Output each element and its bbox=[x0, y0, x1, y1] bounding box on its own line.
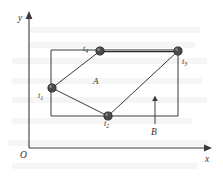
node-label-t4-sub: 4 bbox=[85, 48, 88, 54]
node-label-t2-sub: 2 bbox=[106, 123, 109, 129]
origin-label: O bbox=[20, 151, 27, 161]
node-dot-t3-gloss bbox=[175, 48, 178, 51]
conductor-segment-t2-t1 bbox=[52, 88, 108, 116]
node-label-t1-sub: 1 bbox=[40, 95, 43, 101]
node-label-t4: t4 bbox=[83, 45, 88, 53]
node-label-t3-sub: 3 bbox=[184, 61, 187, 67]
y-axis-label: y bbox=[18, 14, 22, 24]
node-label-t2: t2 bbox=[104, 120, 109, 128]
y-axis-arrowhead bbox=[26, 11, 33, 19]
node-dot-t4 bbox=[96, 47, 104, 55]
area-label-A: A bbox=[93, 77, 99, 86]
axes-group bbox=[26, 11, 212, 151]
node-dot-t4-gloss bbox=[97, 48, 100, 51]
node-dot-t3 bbox=[174, 47, 182, 55]
node-dot-t1-gloss bbox=[49, 85, 52, 88]
x-axis-label: x bbox=[205, 155, 209, 165]
diagram-canvas bbox=[0, 0, 223, 180]
node-dot-t1 bbox=[48, 84, 56, 92]
field-arrow-head bbox=[152, 96, 158, 102]
physics-diagram-figure: y x O t1 t2 t3 t4 A B bbox=[0, 0, 223, 180]
x-axis-arrowhead bbox=[204, 145, 212, 152]
node-dot-t2-gloss bbox=[105, 113, 108, 116]
magnetic-field-label-B: B bbox=[151, 128, 157, 138]
magnetic-field-arrow-group bbox=[152, 96, 158, 125]
rail-frame-group bbox=[51, 50, 178, 116]
node-label-t1: t1 bbox=[38, 92, 43, 100]
conductor-path-group bbox=[52, 50, 178, 116]
node-label-t3: t3 bbox=[182, 58, 187, 66]
conductor-segment-t3-t2 bbox=[108, 51, 178, 116]
